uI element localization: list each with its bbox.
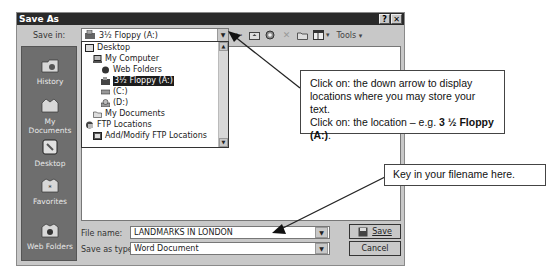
cancel-label: Cancel	[361, 244, 388, 253]
callout-dropdown-instructions: Click on: the down arrow to display loca…	[300, 70, 505, 134]
callout-text: .	[328, 129, 331, 141]
item-label: (D:)	[113, 98, 128, 108]
tools-menu[interactable]: Tools ▾	[337, 31, 363, 40]
scroll-up-button[interactable]: ▲	[219, 42, 228, 51]
title-bar: Save As ? ✕	[17, 13, 404, 25]
file-name-label: File name:	[81, 229, 122, 238]
save-label: Save	[372, 227, 392, 236]
item-label: (C:)	[113, 87, 128, 97]
save-in-value: 3½ Floppy (A:)	[99, 31, 158, 40]
ftp-icon	[85, 121, 94, 129]
new-folder-icon[interactable]	[297, 30, 308, 41]
tools-label: Tools	[337, 31, 357, 40]
scroll-down-button[interactable]: ▼	[219, 138, 228, 147]
place-label: Web Folders	[22, 242, 78, 251]
my-documents-icon	[40, 97, 60, 113]
item-label: 3½ Floppy (A:)	[113, 76, 174, 86]
save-as-type-select[interactable]: Word Document	[130, 242, 330, 255]
dropdown-item-my-computer[interactable]: My Computer	[93, 54, 159, 64]
views-dropdown-arrow[interactable]: ▾	[326, 31, 330, 39]
item-label: Desktop	[97, 43, 130, 53]
callout-line: Click on: the down arrow to display	[310, 77, 495, 90]
cancel-button[interactable]: Cancel	[349, 241, 401, 256]
place-favorites[interactable]: * Favorites	[22, 177, 78, 206]
item-label: Web Folders	[113, 65, 162, 75]
floppy-icon	[101, 77, 110, 85]
dropdown-item-desktop[interactable]: Desktop	[85, 43, 130, 53]
place-label: Favorites	[22, 197, 78, 206]
dropdown-scrollbar[interactable]: ▲ ▼	[218, 42, 228, 147]
place-history[interactable]: History	[22, 57, 78, 86]
save-as-type-label: Save as type:	[81, 245, 135, 254]
callout-line: Click on: the location – e.g. 3 ½ Floppy	[310, 116, 495, 129]
desktop-icon	[40, 139, 60, 155]
dropdown-item-add-ftp[interactable]: Add/Modify FTP Locations	[93, 131, 207, 141]
save-in-dropdown-list: Desktop My Computer Web Folders 3½ Flopp…	[81, 41, 229, 148]
callout-bold: (A:)	[310, 129, 328, 141]
ftp-add-icon	[93, 132, 102, 140]
dropdown-item-ftp-locations[interactable]: FTP Locations	[85, 120, 152, 130]
hard-drive-icon	[101, 88, 110, 96]
desktop-icon	[85, 44, 94, 52]
search-web-icon[interactable]	[265, 30, 276, 41]
place-label: History	[22, 77, 78, 86]
callout-line: Key in your filename here.	[393, 168, 537, 181]
file-name-dropdown-arrow[interactable]: ▼	[315, 227, 328, 238]
save-in-dropdown-arrow[interactable]: ▼	[217, 29, 228, 41]
item-label: My Documents	[105, 109, 165, 119]
place-desktop[interactable]: Desktop	[22, 139, 78, 168]
item-label: FTP Locations	[97, 120, 152, 130]
disk-icon	[358, 227, 368, 237]
callout-bold: 3 ½ Floppy	[439, 116, 494, 128]
save-button[interactable]: Save	[349, 224, 401, 239]
help-button[interactable]: ?	[379, 14, 390, 24]
views-icon[interactable]	[313, 30, 324, 41]
back-icon[interactable]: ⇦	[233, 30, 244, 41]
place-web-folders[interactable]: Web Folders	[22, 222, 78, 251]
places-bar: History My Documents Desktop * Favorites…	[21, 46, 77, 261]
toolbar: ⇦ ✕ ▾ Tools ▾	[233, 28, 362, 42]
callout-line: locations where you may store your text.	[310, 90, 495, 116]
folder-icon	[93, 110, 102, 118]
dropdown-item-web-folders[interactable]: Web Folders	[101, 65, 162, 75]
close-button[interactable]: ✕	[391, 14, 402, 24]
save-in-label: Save in:	[33, 31, 65, 40]
tools-arrow: ▾	[359, 32, 363, 40]
dropdown-item-c-drive[interactable]: (C:)	[101, 87, 128, 97]
callout-line: (A:).	[310, 129, 495, 142]
dropdown-item-d-drive[interactable]: (D:)	[101, 98, 128, 108]
item-label: Add/Modify FTP Locations	[105, 131, 207, 141]
cd-drive-icon	[101, 99, 110, 107]
web-folders-icon	[40, 222, 60, 238]
web-folders-icon	[101, 66, 110, 74]
computer-icon	[93, 55, 102, 63]
history-icon	[40, 57, 60, 73]
svg-text:*: *	[48, 184, 52, 192]
place-label: Desktop	[22, 159, 78, 168]
dropdown-item-floppy[interactable]: 3½ Floppy (A:)	[101, 76, 174, 86]
place-my-documents[interactable]: My Documents	[22, 97, 78, 135]
item-label: My Computer	[105, 54, 159, 64]
favorites-icon: *	[40, 177, 60, 193]
save-in-combo[interactable]: 3½ Floppy (A:) ▼	[81, 28, 229, 42]
delete-icon[interactable]: ✕	[281, 30, 292, 41]
callout-filename-instructions: Key in your filename here.	[384, 164, 546, 186]
place-label: My Documents	[22, 117, 78, 135]
callout-text: Click on: the location – e.g.	[310, 116, 439, 128]
save-as-type-dropdown-arrow[interactable]: ▼	[315, 243, 328, 254]
up-folder-icon[interactable]	[249, 30, 260, 41]
dropdown-item-my-documents[interactable]: My Documents	[93, 109, 165, 119]
dialog-title: Save As	[19, 14, 59, 24]
floppy-icon	[84, 30, 96, 40]
file-name-input[interactable]: LANDMARKS IN LONDON	[130, 226, 330, 239]
